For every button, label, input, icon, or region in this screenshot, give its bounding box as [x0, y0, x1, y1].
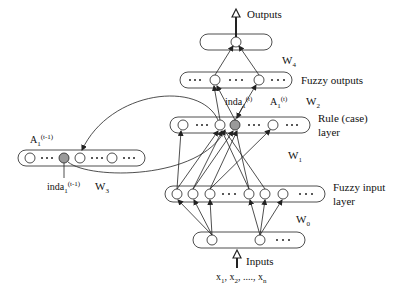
inda-t-minus-1-label: inda1(t-1): [47, 181, 80, 195]
a-t-minus-1-label: A1(t-1): [30, 134, 53, 148]
inda-t-label: inda1(t): [225, 96, 252, 110]
inputs-label: Inputs: [246, 256, 274, 267]
output-node: [231, 37, 241, 47]
fuzzy-input-node: [244, 189, 254, 199]
context-node: [75, 153, 85, 163]
context-layer: [18, 150, 145, 166]
fuzzy-input-label-line2: layer: [333, 196, 355, 207]
fuzzy-input-node: [278, 189, 288, 199]
input-node: [207, 235, 217, 245]
fuzzy-input-node: [260, 189, 270, 199]
inputs-arrow-icon: [233, 250, 241, 268]
rule-layer-label-line2: layer: [318, 127, 340, 138]
w0-label: W0: [296, 214, 310, 228]
fuzzy-input-node: [188, 189, 198, 199]
w1-label: W1: [288, 150, 302, 164]
fuzzy-input-node: [205, 189, 215, 199]
context-node: [25, 153, 35, 163]
fuzzy-outputs-label: Fuzzy outputs: [301, 75, 363, 86]
w4-label: W4: [282, 55, 296, 69]
rule-node: [268, 120, 278, 130]
context-node-shaded: [59, 153, 69, 163]
fuzzy-output-node: [254, 75, 264, 85]
rule-node: [178, 120, 188, 130]
rule-layer-label-line1: Rule (case): [318, 113, 368, 124]
outputs-arrow-icon: [232, 9, 240, 37]
input-variables-label: x1, x2, ...., xn: [216, 272, 267, 285]
rule-node: [215, 120, 225, 130]
a-t-label: A1(t): [270, 96, 287, 110]
fuzzy-output-node: [210, 75, 220, 85]
fuzzy-input-node: [172, 189, 182, 199]
rule-layer: [170, 117, 310, 133]
rule-node-shaded: [230, 120, 240, 130]
context-node: [107, 153, 117, 163]
input-node: [255, 235, 265, 245]
w2-label: W2: [306, 96, 320, 110]
neuro-fuzzy-network-diagram: [0, 0, 401, 297]
outputs-label: Outputs: [247, 9, 282, 20]
w3-label: W3: [95, 181, 109, 195]
fuzzy-input-label-line1: Fuzzy input: [333, 182, 385, 193]
